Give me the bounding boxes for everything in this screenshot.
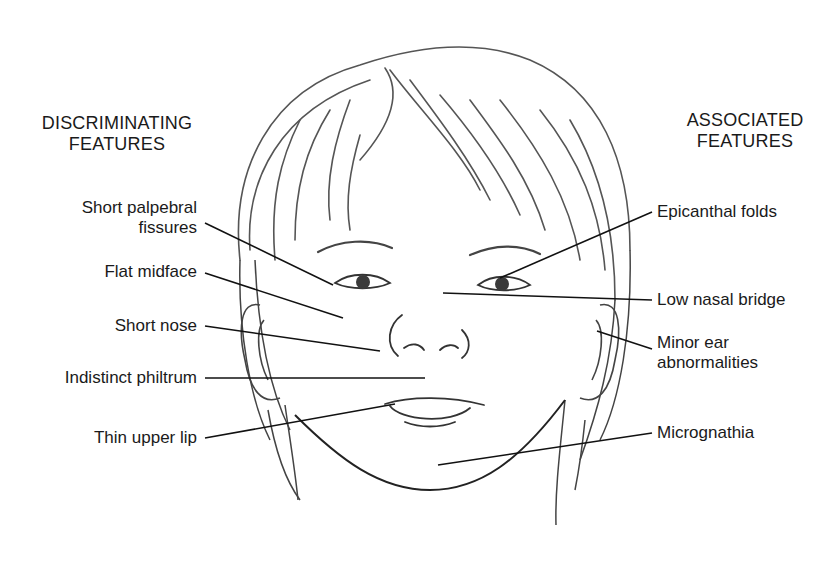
hair-outline <box>239 47 631 300</box>
nose <box>390 315 469 358</box>
label-minor-ear-abnormalities: Minor ear abnormalities <box>657 333 758 373</box>
label-low-nasal-bridge: Low nasal bridge <box>657 290 786 310</box>
associated-features-heading: ASSOCIATED FEATURES <box>670 110 820 152</box>
label-flat-midface: Flat midface <box>104 262 197 282</box>
label-short-nose: Short nose <box>115 316 197 336</box>
label-micrognathia: Micrognathia <box>657 423 754 443</box>
label-thin-upper-lip: Thin upper lip <box>94 428 197 448</box>
label-indistinct-philtrum: Indistinct philtrum <box>65 368 197 388</box>
label-short-palpebral-fissures: Short palpebral fissures <box>82 198 197 238</box>
label-epicanthal-folds: Epicanthal folds <box>657 202 777 222</box>
child-face-illustration <box>0 0 840 565</box>
side-hair <box>240 250 630 525</box>
mouth <box>385 398 484 426</box>
discriminating-features-heading: DISCRIMINATING FEATURES <box>22 113 212 155</box>
face-outline <box>295 400 565 490</box>
brows <box>318 242 540 255</box>
ears <box>241 304 618 399</box>
